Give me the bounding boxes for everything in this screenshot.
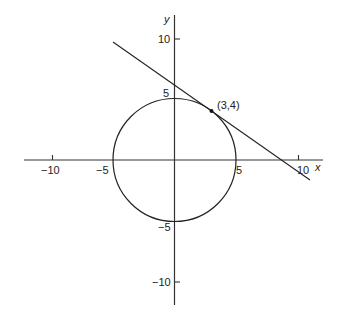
y-axis-label: y <box>163 13 171 25</box>
x-tick-label-5: 5 <box>236 164 242 176</box>
y-tick-label-10: 10 <box>158 33 170 45</box>
y-tick-label-neg10: −10 <box>152 276 171 288</box>
circle-tangent-plot: (3,4) x y −10 −5 5 10 10 5 −5 −10 <box>0 0 342 319</box>
x-tick-label-neg5: −5 <box>96 164 109 176</box>
tangent-point <box>210 109 214 113</box>
x-tick-label-neg10: −10 <box>41 164 60 176</box>
y-tick-label-neg5: −5 <box>158 221 171 233</box>
x-axis-label: x <box>314 161 321 173</box>
diagram-canvas: (3,4) x y −10 −5 5 10 10 5 −5 −10 <box>0 0 342 319</box>
x-tick-label-10: 10 <box>297 164 309 176</box>
y-tick-label-5: 5 <box>163 87 169 99</box>
point-label: (3,4) <box>217 99 240 111</box>
